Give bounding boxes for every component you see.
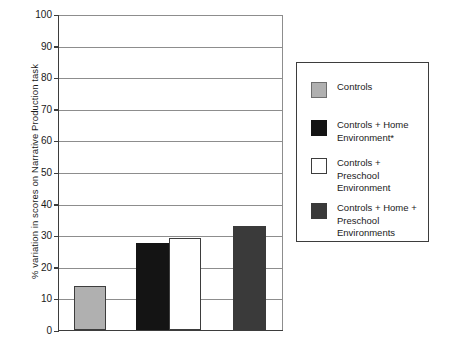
tick-label: 70 — [41, 104, 52, 115]
tick-mark — [54, 299, 59, 301]
bar-home-environment — [136, 243, 169, 330]
legend-swatch — [311, 82, 327, 98]
tick-mark — [54, 46, 59, 48]
tick-label: 0 — [46, 325, 52, 336]
legend-item: Controls + Home + Preschool Environments — [311, 202, 417, 240]
legend-item: Controls — [311, 81, 372, 98]
legend: ControlsControls + Home Environment*Cont… — [296, 62, 429, 242]
tick-mark — [54, 141, 59, 143]
tick-label: 20 — [41, 262, 52, 273]
tick-mark — [54, 204, 59, 206]
tick-label: 50 — [41, 167, 52, 178]
legend-label: Controls + Home + Preschool Environments — [337, 202, 417, 240]
tick-mark — [54, 109, 59, 111]
gridline — [59, 173, 283, 174]
tick-mark — [54, 173, 59, 175]
tick-mark — [54, 15, 59, 17]
tick-label: 100 — [35, 9, 52, 20]
legend-label: Controls — [337, 81, 372, 94]
plot-area — [58, 15, 283, 331]
tick-label: 60 — [41, 135, 52, 146]
tick-mark — [54, 267, 59, 269]
tick-label: 10 — [41, 293, 52, 304]
legend-label: Controls + Preschool Environment — [337, 157, 390, 195]
tick-label: 40 — [41, 199, 52, 210]
gridline — [59, 141, 283, 142]
y-axis-tick-labels: 1009080706050403020100 — [0, 0, 52, 358]
bar-chart: % variation in scores on Narrative Produ… — [0, 0, 452, 358]
gridline — [59, 110, 283, 111]
tick-mark — [54, 78, 59, 80]
bar-controls — [74, 286, 106, 330]
tick-mark — [54, 236, 59, 238]
gridline — [59, 15, 283, 16]
tick-label: 30 — [41, 230, 52, 241]
legend-item: Controls + Home Environment* — [311, 119, 409, 144]
bar-preschool-environment — [169, 238, 201, 330]
legend-swatch — [311, 120, 327, 136]
bar-home-preschool — [233, 226, 266, 330]
gridline — [59, 205, 283, 206]
legend-item: Controls + Preschool Environment — [311, 157, 390, 195]
legend-swatch — [311, 158, 327, 174]
tick-label: 90 — [41, 41, 52, 52]
tick-label: 80 — [41, 72, 52, 83]
legend-swatch — [311, 203, 327, 219]
tick-mark — [54, 331, 59, 333]
legend-label: Controls + Home Environment* — [337, 119, 409, 144]
gridline — [59, 78, 283, 79]
gridline — [59, 47, 283, 48]
